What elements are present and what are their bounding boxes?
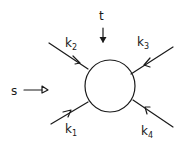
- loop-circle: [85, 60, 135, 112]
- s-channel-label: s: [11, 84, 17, 98]
- feynman-diagram: t s k2 k3 k1 k4: [0, 0, 183, 144]
- t-arrow-icon: [100, 28, 107, 43]
- leg-k1: [51, 102, 88, 124]
- k1-label: k1: [65, 122, 77, 138]
- s-arrow-icon: [24, 86, 48, 93]
- k2-label: k2: [65, 36, 77, 52]
- k4-label: k4: [141, 124, 153, 140]
- leg-k3: [131, 47, 173, 74]
- k3-label: k3: [137, 35, 149, 51]
- t-channel-label: t: [99, 9, 104, 23]
- leg-k4: [133, 100, 173, 127]
